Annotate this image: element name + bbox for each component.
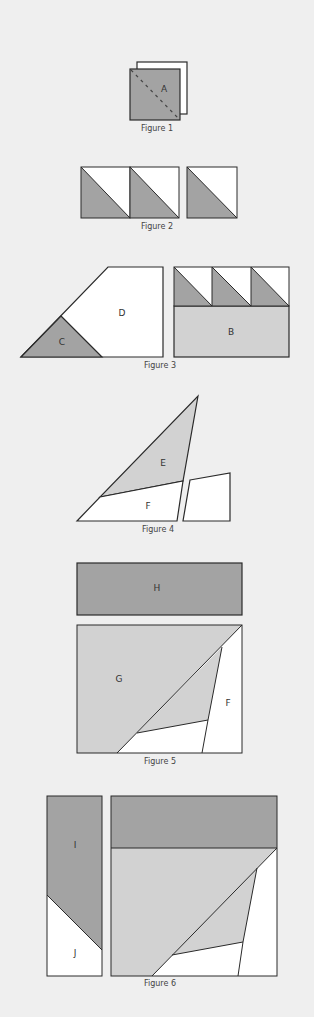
label-a: A [161,84,168,94]
quilt-diagram-canvas: A Figure 1 Figure 2 D C [0,0,314,1017]
hst-square-1 [81,167,130,218]
figure-1: A Figure 1 [130,62,187,133]
label-c: C [59,337,65,347]
piece-f-trim [183,473,230,521]
label-b: B [228,327,234,337]
label-h: H [154,583,161,593]
figure-5-caption: Figure 5 [144,757,176,766]
label-g: G [116,674,123,684]
strip-i-j: I J [47,796,102,976]
piece-h-attached [111,796,277,848]
hst-square-3 [187,167,237,218]
figure-4: E F Figure 4 [77,396,230,534]
label-i: I [74,840,77,850]
figure-1-caption: Figure 1 [141,124,173,133]
label-f: F [225,698,230,708]
figure-3: D C B Figure 3 [21,267,289,370]
figure-6-caption: Figure 6 [144,979,176,988]
label-f: F [145,501,150,511]
figure-2-caption: Figure 2 [141,222,173,231]
label-e: E [160,458,166,468]
hst-square-2 [130,167,179,218]
figure-4-caption: Figure 4 [142,525,174,534]
piece-b-with-hst-row: B [174,267,289,357]
label-j: J [73,948,77,958]
piece-d-c: D C [21,267,163,357]
figure-2: Figure 2 [81,167,237,231]
figure-6: I J Figure 6 [47,796,277,988]
label-d: D [119,308,126,318]
figure-3-caption: Figure 3 [144,361,176,370]
figure-5: H G F Figure 5 [77,563,242,766]
block-6-main [111,796,277,976]
